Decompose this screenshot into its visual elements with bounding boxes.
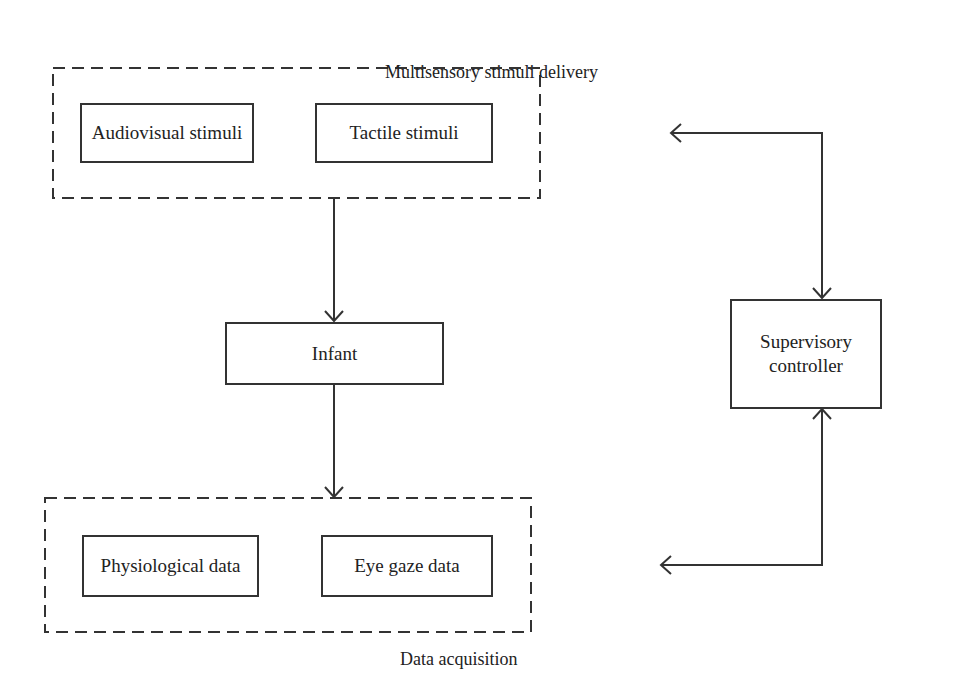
eye-gaze-data-block: Eye gaze data [321, 535, 493, 597]
stimuli-delivery-label: Multisensory stimuli delivery [385, 62, 598, 83]
arrow-controller-data [661, 409, 831, 574]
controller-label-line1: Supervisory [760, 330, 852, 354]
infant-label: Infant [312, 342, 357, 366]
tactile-stimuli-label: Tactile stimuli [350, 121, 459, 145]
physiological-data-block: Physiological data [82, 535, 259, 597]
arrow-controller-stimuli [671, 124, 831, 298]
controller-label-line2: controller [769, 354, 843, 378]
arrow-infant-to-data [325, 384, 343, 497]
arrow-stimuli-to-infant [325, 198, 343, 321]
audiovisual-stimuli-label: Audiovisual stimuli [92, 121, 242, 145]
tactile-stimuli-block: Tactile stimuli [315, 103, 493, 163]
supervisory-controller-block: Supervisory controller [730, 299, 882, 409]
infant-block: Infant [225, 322, 444, 385]
physiological-data-label: Physiological data [101, 554, 241, 578]
audiovisual-stimuli-block: Audiovisual stimuli [80, 103, 254, 163]
data-acquisition-label: Data acquisition [400, 649, 517, 670]
eye-gaze-data-label: Eye gaze data [354, 554, 459, 578]
